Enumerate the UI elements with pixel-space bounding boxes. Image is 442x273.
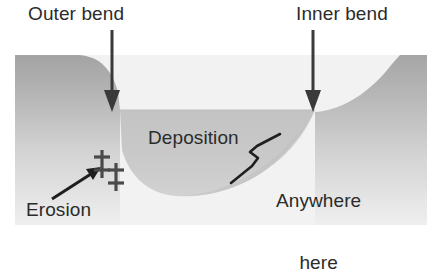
label-inner-bend: Inner bend bbox=[296, 4, 388, 25]
label-erosion: Erosion bbox=[26, 200, 91, 221]
label-outer-bend: Outer bend bbox=[28, 4, 124, 25]
label-deposition: Deposition bbox=[148, 128, 239, 149]
label-anywhere-line-1: Anywhere bbox=[276, 191, 361, 212]
label-anywhere-line-2: here bbox=[276, 253, 361, 273]
label-anywhere-here: Anywhere here bbox=[276, 150, 361, 273]
